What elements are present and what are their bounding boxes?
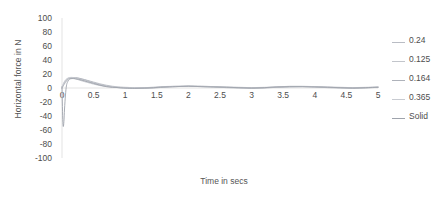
legend-item[interactable]: 0.365: [392, 91, 448, 110]
plot-area: [62, 18, 378, 158]
legend-label: 0.365: [409, 93, 430, 102]
legend-label: Solid: [409, 112, 428, 121]
legend-line-swatch: [392, 80, 405, 81]
legend-line-swatch: [392, 42, 405, 43]
chart-figure: Horizontal force in N 100806040200-20-40…: [0, 0, 448, 199]
x-axis-label: Time in secs: [0, 176, 448, 186]
plot-svg: [62, 18, 378, 158]
legend-item[interactable]: 0.164: [392, 72, 448, 91]
legend-label: 0.24: [409, 36, 426, 45]
legend-label: 0.164: [409, 74, 430, 83]
legend-line-swatch: [392, 99, 405, 100]
legend-line-swatch: [392, 118, 405, 119]
legend-item[interactable]: Solid: [392, 110, 448, 129]
legend-item[interactable]: 0.24: [392, 34, 448, 53]
chart-legend: 0.240.1250.1640.365Solid: [392, 34, 448, 129]
legend-label: 0.125: [409, 55, 430, 64]
legend-line-swatch: [392, 61, 405, 62]
legend-item[interactable]: 0.125: [392, 53, 448, 72]
